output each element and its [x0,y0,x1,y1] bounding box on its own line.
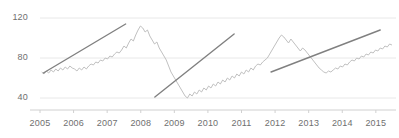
y-axis-label-80: 80 [2,52,28,62]
x-axis-label-2006: 2006 [59,118,89,128]
x-axis-label-2007: 2007 [92,118,122,128]
chart-container: 120 80 40 2005 2006 2007 2008 2009 2010 … [0,0,399,138]
x-axis-label-2005: 2005 [25,118,55,128]
x-axis-label-2012: 2012 [260,118,290,128]
x-axis-label-2011: 2011 [227,118,257,128]
gridlines [40,18,396,98]
x-axis-label-2015: 2015 [361,118,391,128]
x-axis-label-2014: 2014 [327,118,357,128]
price-series-line [42,26,392,98]
x-axis-label-2010: 2010 [193,118,223,128]
x-axis-label-2009: 2009 [159,118,189,128]
x-axis-label-2008: 2008 [126,118,156,128]
y-axis-label-120: 120 [2,12,28,22]
y-axis-label-40: 40 [2,92,28,102]
x-axis-label-2013: 2013 [294,118,324,128]
